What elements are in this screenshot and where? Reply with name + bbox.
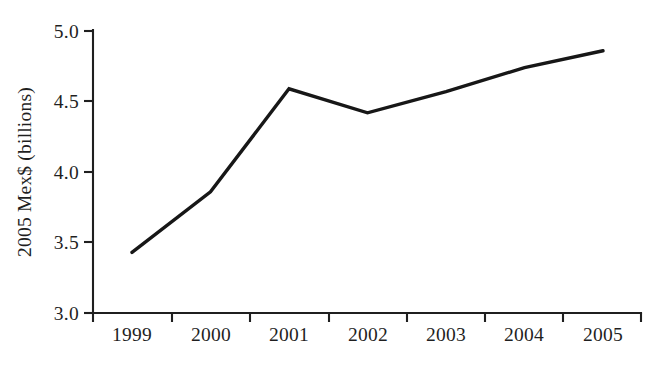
y-tick-label-3-5: 3.5 — [54, 232, 79, 253]
chart-canvas: 5.0 4.5 4.0 3.5 3.0 1999 2000 2001 2002 … — [0, 0, 660, 367]
y-tick-label-3-0: 3.0 — [54, 303, 79, 324]
x-tick-label-2001: 2001 — [269, 324, 309, 345]
x-tick-label-2005: 2005 — [583, 324, 623, 345]
x-tick-label-1999: 1999 — [112, 324, 152, 345]
line-chart: 5.0 4.5 4.0 3.5 3.0 1999 2000 2001 2002 … — [0, 0, 660, 367]
y-tick-label-4-0: 4.0 — [54, 162, 79, 183]
x-tick-label-2004: 2004 — [504, 324, 544, 345]
x-tick-label-2000: 2000 — [191, 324, 231, 345]
x-tick-label-2003: 2003 — [426, 324, 466, 345]
data-series-line — [132, 51, 603, 253]
x-tick-label-2002: 2002 — [348, 324, 388, 345]
y-axis-title: 2005 Mex$ (billions) — [14, 87, 36, 257]
y-tick-label-4-5: 4.5 — [54, 91, 79, 112]
y-tick-label-5-0: 5.0 — [54, 21, 79, 42]
